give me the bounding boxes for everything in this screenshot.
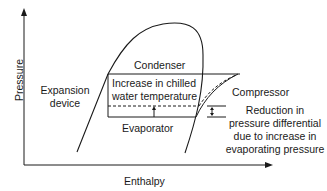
compression-line-dashed (199, 75, 236, 106)
chilled-water-label-line2: water temperature (112, 90, 197, 102)
expansion-device-label-line2: device (35, 97, 95, 109)
reduction-label-line4: evaporating pressure (220, 143, 327, 155)
y-axis-label: Pressure (13, 55, 25, 105)
x-axis-label: Enthalpy (124, 175, 165, 187)
double-arrow-up-icon (210, 107, 214, 110)
up-arrow-icon (152, 106, 156, 110)
y-axis-arrow-icon (21, 8, 27, 16)
reduction-label-line1: Reduction in (220, 104, 327, 116)
condenser-label: Condenser (134, 59, 185, 71)
reduction-label-line2: pressure differential (220, 117, 327, 129)
reduction-label-line3: due to increase in (220, 130, 327, 142)
compressor-label: Compressor (232, 86, 289, 98)
chilled-water-label-line1: Increase in chilled (112, 77, 196, 89)
expansion-device-label-line1: Expansion (35, 84, 95, 96)
x-axis-arrow-icon (265, 162, 273, 168)
evaporator-label: Evaporator (122, 122, 173, 134)
double-arrow-down-icon (210, 113, 214, 116)
